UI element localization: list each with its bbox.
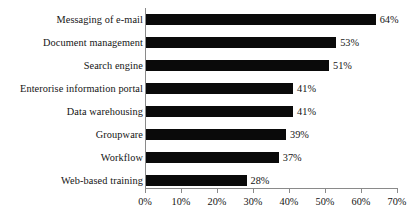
category-label: Data warehousing	[1, 106, 143, 117]
bar	[146, 106, 293, 117]
x-axis-tick-label: 10%	[172, 196, 191, 208]
bar-value-label: 41%	[297, 83, 316, 94]
bar	[146, 14, 376, 25]
bar	[146, 152, 279, 163]
category-label: Workflow	[1, 152, 143, 163]
x-axis-tick-label: 20%	[208, 196, 227, 208]
category-axis-labels: Messaging of e-mail Document management …	[0, 0, 143, 190]
bar	[146, 129, 286, 140]
bar-chart: Messaging of e-mail Document management …	[0, 0, 410, 224]
x-axis-tick-label: 50%	[316, 196, 335, 208]
bar-value-label: 64%	[380, 14, 399, 25]
bar	[146, 37, 336, 48]
bar-value-label: 37%	[283, 152, 302, 163]
x-axis-tick	[397, 189, 398, 193]
bar	[146, 60, 329, 71]
category-label: Messaging of e-mail	[1, 14, 143, 25]
bar	[146, 83, 293, 94]
y-axis-line	[145, 8, 146, 189]
x-axis-tick	[361, 189, 362, 193]
category-label: Groupware	[1, 129, 143, 140]
x-axis-tick-label: 60%	[352, 196, 371, 208]
bar-value-label: 39%	[290, 129, 309, 140]
x-axis-tick-label: 0%	[138, 196, 152, 208]
bar-value-label: 53%	[340, 37, 359, 48]
x-axis-tick	[253, 189, 254, 193]
bar	[146, 175, 247, 186]
bar-value-label: 28%	[251, 175, 270, 186]
plot-area: 64% 53% 51% 41% 41% 39% 37% 28%	[146, 8, 398, 188]
x-axis-tick	[325, 189, 326, 193]
category-label: Document management	[1, 37, 143, 48]
x-axis-tick-label: 30%	[244, 196, 263, 208]
x-axis-tick	[181, 189, 182, 193]
category-label: Enterorise information portal	[1, 83, 143, 94]
x-axis-tick	[145, 189, 146, 193]
bar-value-label: 41%	[297, 106, 316, 117]
x-axis-tick	[289, 189, 290, 193]
category-label: Web-based training	[1, 175, 143, 186]
bar-value-label: 51%	[333, 60, 352, 71]
x-axis-tick-label: 70%	[388, 196, 407, 208]
category-label: Search engine	[1, 60, 143, 71]
x-axis-tick	[217, 189, 218, 193]
x-axis-tick-label: 40%	[280, 196, 299, 208]
